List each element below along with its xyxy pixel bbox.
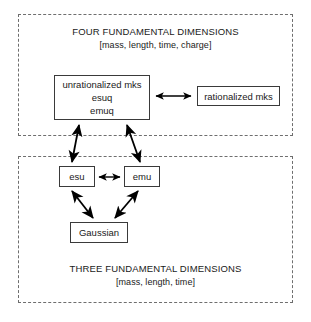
node-unrationalized-mks-line2: esuq <box>92 91 113 104</box>
node-unrationalized-mks-line1: unrationalized mks <box>62 78 141 91</box>
node-emu[interactable]: emu <box>124 166 160 187</box>
node-rationalized-mks[interactable]: rationalized mks <box>197 86 280 106</box>
node-unrationalized-mks[interactable]: unrationalized mks esuq emuq <box>54 75 150 120</box>
edge-esu-to-gaussian <box>72 191 93 218</box>
node-esu-label: esu <box>69 170 84 183</box>
edge-emu-to-gaussian <box>115 191 138 218</box>
node-unrationalized-mks-line3: emuq <box>90 104 114 117</box>
node-rationalized-mks-label: rationalized mks <box>204 90 273 103</box>
edge-esu-to-unrationalized-mks <box>72 125 79 162</box>
node-esu[interactable]: esu <box>59 166 95 187</box>
node-emu-label: emu <box>133 170 151 183</box>
arrows-layer: rationalized mks --> unrationalized mks … <box>0 0 311 322</box>
node-gaussian-label: Gaussian <box>79 226 119 239</box>
node-gaussian[interactable]: Gaussian <box>70 222 128 243</box>
edge-emu-to-unrationalized-mks <box>127 125 140 162</box>
diagram-canvas: FOUR FUNDAMENTAL DIMENSIONS [mass, lengt… <box>0 0 311 322</box>
